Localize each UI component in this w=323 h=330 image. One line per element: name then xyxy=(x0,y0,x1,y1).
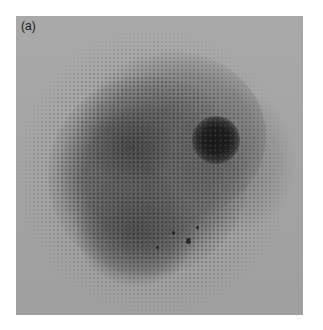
panel-label: (a) xyxy=(21,19,36,33)
micrograph-image: (a) xyxy=(16,16,303,315)
speckle-texture xyxy=(16,16,303,315)
